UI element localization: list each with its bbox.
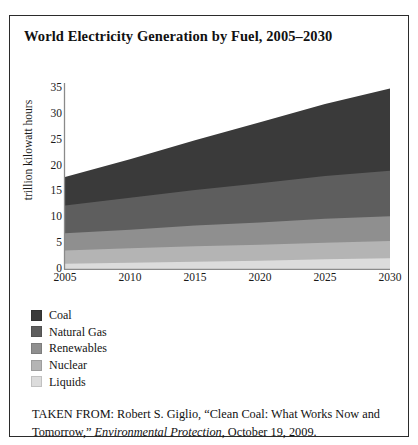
legend-label: Liquids (49, 376, 86, 388)
legend-item: Liquids (31, 373, 231, 390)
legend-swatch-icon (31, 376, 42, 387)
legend-item: Nuclear (31, 357, 231, 374)
legend-label: Natural Gas (49, 326, 107, 338)
chart-title: World Electricity Generation by Fuel, 20… (24, 28, 332, 45)
legend-swatch-icon (31, 326, 42, 337)
legend-label: Nuclear (49, 359, 87, 371)
x-tick-label: 2020 (249, 272, 272, 284)
legend-swatch-icon (31, 343, 42, 354)
legend-swatch-icon (31, 360, 42, 371)
legend-label: Renewables (49, 342, 107, 354)
legend-item: Renewables (31, 340, 231, 357)
legend-label: Coal (49, 309, 72, 321)
x-axis-tick-labels: 200520102015202020252030 (10, 272, 408, 292)
legend-item: Coal (31, 307, 231, 324)
legend-swatch-icon (31, 310, 42, 321)
x-tick-label: 2025 (314, 272, 337, 284)
x-tick-label: 2005 (54, 272, 77, 284)
caption-suffix: , October 19, 2009. (222, 425, 317, 439)
figure-frame: World Electricity Generation by Fuel, 20… (9, 15, 409, 437)
chart-legend: CoalNatural GasRenewablesNuclearLiquids (31, 307, 231, 390)
x-tick-label: 2030 (379, 272, 402, 284)
caption-source-title: Environmental Protection (95, 425, 222, 439)
chart-plot-region: trillion kilowatt hours 05101520253035 2… (10, 56, 408, 291)
x-tick-label: 2015 (184, 272, 207, 284)
chart-axes (10, 56, 408, 291)
x-tick-label: 2010 (119, 272, 142, 284)
legend-item: Natural Gas (31, 324, 231, 341)
figure-caption: TAKEN FROM: Robert S. Giglio, “Clean Coa… (32, 406, 402, 441)
